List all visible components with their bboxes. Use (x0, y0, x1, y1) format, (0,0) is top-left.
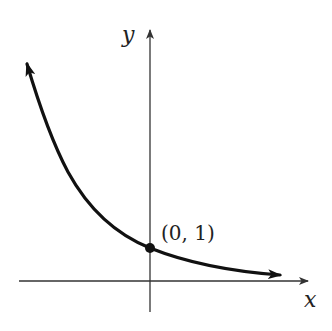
exponential-graph: y x (0, 1) (0, 0, 332, 331)
curve-left-branch (27, 64, 150, 248)
y-axis-label: y (121, 22, 135, 47)
x-axis-label: x (304, 287, 317, 312)
curve-right-branch (150, 248, 280, 275)
point-label: (0, 1) (161, 221, 215, 245)
y-intercept-point (145, 243, 155, 253)
